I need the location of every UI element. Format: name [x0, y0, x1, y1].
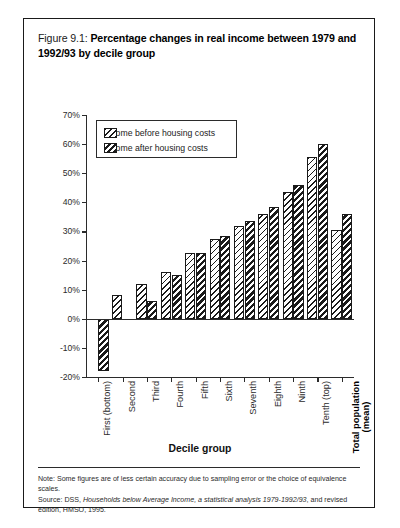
y-axis-tick-label: 10%: [63, 285, 80, 295]
bar-before-housing-costs: [258, 214, 268, 319]
y-axis-tick-label: 0%: [68, 314, 80, 324]
bar-after-housing-costs: [342, 214, 352, 319]
bar-after-housing-costs: [220, 236, 230, 319]
footnote-divider: [38, 467, 360, 468]
figure-title-block: Figure 9.1: Percentage changes in real i…: [38, 31, 360, 60]
bar-before-housing-costs: [210, 239, 220, 319]
bar-before-housing-costs: [331, 230, 341, 319]
legend-swatch-before-housing-costs: [104, 128, 117, 138]
x-axis-category-label: First (bottom): [102, 381, 112, 436]
y-axis-tick-label: 20%: [63, 256, 80, 266]
zero-baseline: [86, 319, 354, 320]
bar-after-housing-costs: [245, 221, 255, 319]
y-axis-tick-label: 60%: [63, 139, 80, 149]
bar-after-housing-costs: [98, 319, 108, 371]
y-axis-tick-label: -20%: [60, 372, 80, 382]
x-axis-category-label: Ninth: [297, 381, 307, 402]
bar-after-housing-costs: [318, 144, 328, 319]
bar-before-housing-costs: [234, 226, 244, 319]
bar-after-housing-costs: [269, 207, 279, 319]
legend-item-before: Income before housing costs: [104, 126, 215, 139]
legend-label-before: Income before housing costs: [104, 128, 215, 138]
legend-item-after: Income after housing costs: [104, 141, 208, 154]
bar-before-housing-costs: [185, 253, 195, 319]
footnote-source: Source: DSS, Households below Average In…: [38, 495, 364, 516]
x-axis-category-label: Fourth: [175, 381, 185, 408]
x-axis-title: Decile group: [24, 443, 376, 454]
bar-after-housing-costs: [293, 185, 303, 319]
x-axis-category-label: Second: [127, 381, 137, 412]
chart-legend: Income before housing costs Income after…: [96, 120, 237, 158]
x-axis-category-label: Seventh: [248, 381, 258, 415]
bar-after-housing-costs: [196, 253, 206, 319]
y-axis-tick-label: 30%: [63, 226, 80, 236]
x-axis-category-label: Third: [151, 381, 161, 402]
figure-panel: Figure 9.1: Percentage changes in real i…: [23, 18, 375, 508]
x-axis-category-label: Tenth (top): [321, 381, 331, 425]
bar-before-housing-costs: [307, 157, 317, 319]
bar-before-housing-costs: [283, 192, 293, 319]
source-title: Households below Average Income, a stati…: [83, 496, 307, 504]
x-axis-category-label: Eighth: [273, 381, 283, 407]
y-axis-tick-label: 50%: [63, 168, 80, 178]
y-axis-tick-label: -10%: [60, 343, 80, 353]
footnote-block: Note: Some figures are of less certain a…: [38, 474, 364, 516]
y-axis-tick-label: 70%: [63, 110, 80, 120]
bar-after-housing-costs: [147, 301, 157, 318]
bar-before-housing-costs: [161, 272, 171, 319]
bar-before-housing-costs: [136, 284, 146, 319]
footnote-note: Note: Some figures are of less certain a…: [38, 474, 364, 495]
y-axis-tick-label: 40%: [63, 197, 80, 207]
legend-label-after: Income after housing costs: [104, 143, 208, 153]
legend-swatch-after-housing-costs: [104, 143, 117, 153]
figure-label: Figure 9.1:: [38, 32, 88, 44]
x-axis-category-label: Sixth: [224, 381, 234, 401]
source-prefix: Source: DSS,: [38, 496, 83, 504]
y-axis-labels: 70%60%50%40%30%20%10%0%-10%-20%: [44, 115, 80, 377]
bar-after-housing-costs: [172, 275, 182, 319]
x-axis-category-label: Fifth: [200, 381, 210, 399]
bar-before-housing-costs: [112, 295, 122, 318]
